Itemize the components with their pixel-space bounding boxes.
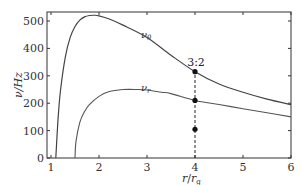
axis-ticks: 1234560100200300400500 bbox=[23, 12, 295, 174]
y-axis-label: ν/Hz bbox=[12, 72, 25, 98]
y-tick-label: 400 bbox=[23, 42, 44, 55]
y-tick-label: 500 bbox=[23, 15, 44, 28]
x-tick-label: 5 bbox=[240, 161, 247, 174]
x-tick-label: 3 bbox=[144, 161, 151, 174]
nu-theta-curve bbox=[56, 15, 291, 158]
marker-dot bbox=[192, 69, 197, 74]
x-tick-label: 6 bbox=[288, 161, 295, 174]
nu-r-label: νr bbox=[141, 82, 151, 95]
marker-dot bbox=[192, 127, 197, 132]
y-tick-label: 100 bbox=[23, 125, 44, 138]
frequency-chart: 1234560100200300400500 3:2 νθ νr ν/Hz r/… bbox=[0, 0, 301, 185]
nu-r-curve bbox=[75, 89, 291, 158]
y-tick-label: 200 bbox=[23, 97, 44, 110]
ratio-annotation: 3:2 bbox=[187, 56, 205, 69]
x-tick-label: 1 bbox=[48, 161, 55, 174]
y-tick-label: 300 bbox=[23, 70, 44, 83]
nu-theta-label: νθ bbox=[141, 29, 152, 42]
plot-frame bbox=[47, 12, 291, 158]
x-tick-label: 2 bbox=[96, 161, 103, 174]
marker-dot bbox=[192, 98, 197, 103]
y-tick-label: 0 bbox=[37, 152, 44, 165]
